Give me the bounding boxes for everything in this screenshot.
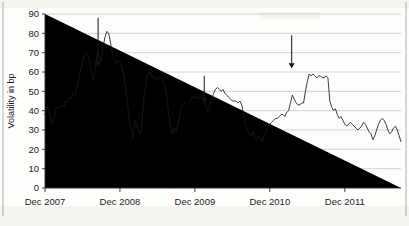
y-tick-label: 0: [34, 182, 39, 193]
y-tick-label: 60: [28, 66, 39, 77]
x-tick-label: Dec 2009: [175, 196, 216, 207]
y-tick-label: 20: [28, 144, 39, 155]
y-tick-label: 70: [28, 47, 39, 58]
x-tick-label: Dec 2011: [325, 196, 365, 207]
y-tick-label: 90: [28, 8, 39, 19]
y-tick-label: 80: [28, 28, 39, 39]
x-tick-label: Dec 2007: [25, 196, 66, 207]
y-tick-label: 30: [28, 124, 39, 135]
annotation-arrow-head: [289, 63, 295, 68]
x-axis-group: Dec 2007Dec 2008Dec 2009Dec 2010Dec 2011: [25, 188, 365, 207]
y-tick-label: 50: [28, 86, 39, 97]
x-tick-label: Dec 2010: [250, 196, 291, 207]
y-tick-label: 40: [28, 105, 39, 116]
chart-figure: 0102030405060708090 Dec 2007Dec 2008Dec …: [0, 0, 409, 226]
x-tick-label: Dec 2008: [100, 196, 141, 207]
chart-svg: 0102030405060708090 Dec 2007Dec 2008Dec …: [0, 0, 409, 226]
y-axis-title: Volatility in bp: [6, 73, 16, 128]
y-tick-label: 10: [28, 163, 39, 174]
